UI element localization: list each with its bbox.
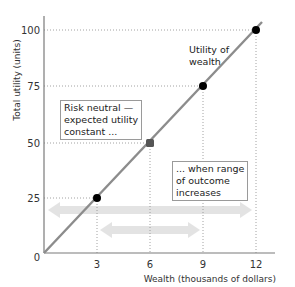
- point-6-50: [146, 139, 154, 147]
- risk-neutral-note: Risk neutral — expected utility constant…: [60, 100, 142, 140]
- x-tick-12: 12: [250, 259, 263, 270]
- point-9-75: [199, 82, 207, 90]
- origin-label: 0: [34, 252, 40, 263]
- range-increase-note: ... when range of outcome increases: [172, 161, 248, 201]
- x-tick-9: 9: [200, 259, 206, 270]
- y-tick-50: 50: [27, 138, 40, 149]
- point-3-25: [93, 194, 101, 202]
- y-axis-title: Total utility (units): [12, 39, 22, 121]
- utility-chart: 100 75 50 25 0 3 6 9 12 Wealth (thousand…: [0, 0, 295, 287]
- x-tick-6: 6: [147, 259, 153, 270]
- utility-of-wealth-label: Utility of wealth: [189, 44, 229, 68]
- x-axis-title: Wealth (thousands of dollars): [144, 274, 276, 284]
- x-tick-3: 3: [94, 259, 100, 270]
- y-tick-100: 100: [21, 25, 40, 36]
- y-tick-25: 25: [27, 193, 40, 204]
- y-tick-75: 75: [27, 81, 40, 92]
- point-12-100: [252, 26, 260, 34]
